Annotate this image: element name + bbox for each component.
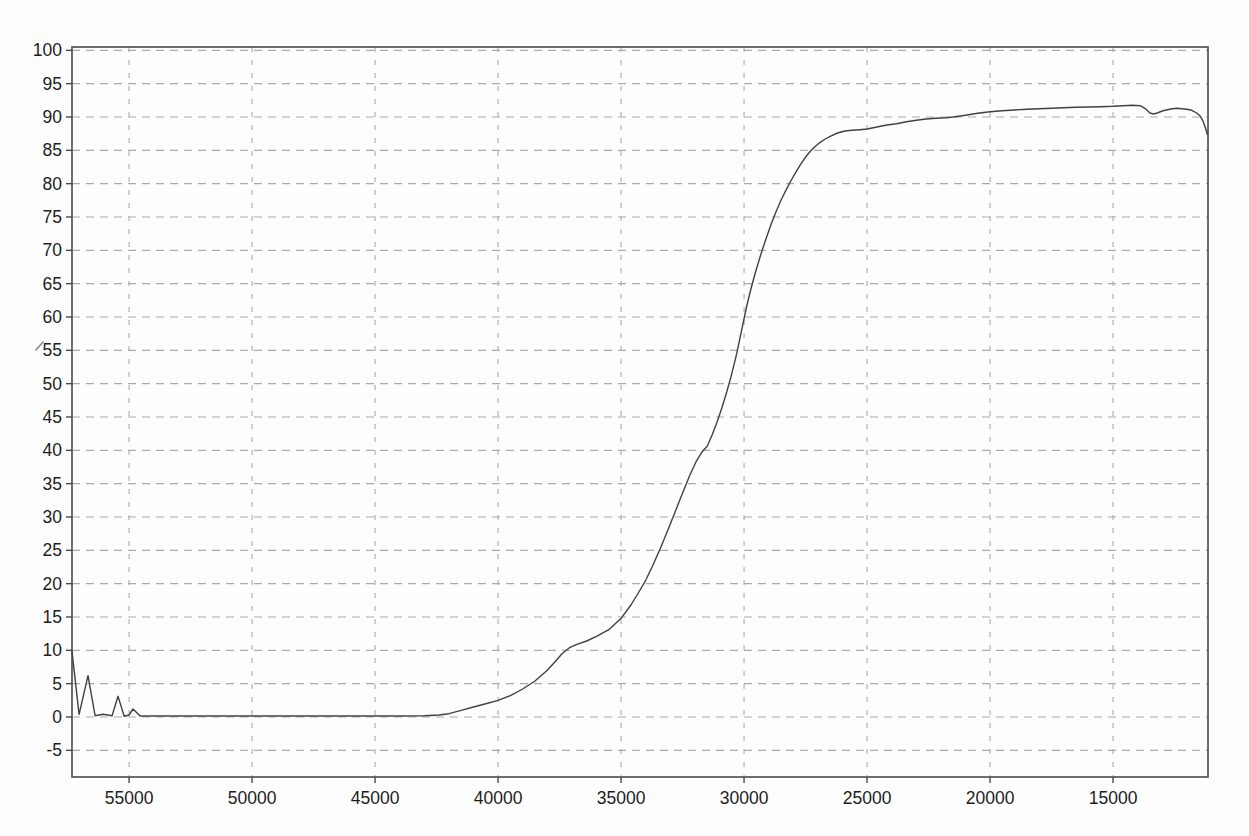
x-tick-label: 20000 <box>966 788 1015 808</box>
y-tick-label: 75 <box>43 207 62 227</box>
y-tick-label: 20 <box>43 574 63 594</box>
y-tick-label: 80 <box>43 174 63 194</box>
x-tick-label: 50000 <box>228 788 277 808</box>
y-tick-label: 45 <box>43 407 62 427</box>
y-tick-label: -5 <box>46 740 62 760</box>
x-tick-label: 15000 <box>1089 788 1138 808</box>
scanned-spectrum-page: 1009590858075706560555045403530252015105… <box>0 0 1249 836</box>
y-tick-label: 15 <box>43 607 62 627</box>
transmission-spectrum-curve <box>72 105 1207 716</box>
y-tick-label: 10 <box>43 640 63 660</box>
plot-frame <box>72 47 1208 777</box>
y-tick-label: 65 <box>43 274 62 294</box>
x-tick-label: 35000 <box>597 788 646 808</box>
y-tick-label: 50 <box>43 374 63 394</box>
y-tick-label: 85 <box>43 140 62 160</box>
x-tick-label: 25000 <box>843 788 892 808</box>
y-tick-label: 60 <box>43 307 63 327</box>
transmission-spectrum-chart: 1009590858075706560555045403530252015105… <box>0 0 1249 836</box>
y-tick-label: 70 <box>43 240 63 260</box>
x-tick-label: 45000 <box>351 788 400 808</box>
y-tick-label: 5 <box>52 674 62 694</box>
y-tick-label: 95 <box>43 74 62 94</box>
x-tick-label: 55000 <box>105 788 154 808</box>
y-tick-label: 0 <box>52 707 62 727</box>
y-tick-label: 100 <box>33 40 62 60</box>
x-tick-label: 30000 <box>720 788 769 808</box>
y-tick-label: 90 <box>43 107 63 127</box>
y-tick-label: 30 <box>43 507 63 527</box>
y-tick-label: 25 <box>43 540 62 560</box>
y-tick-label: 35 <box>43 474 62 494</box>
y-tick-label: 55 <box>43 340 62 360</box>
x-tick-label: 40000 <box>474 788 523 808</box>
y-tick-label: 40 <box>43 440 63 460</box>
